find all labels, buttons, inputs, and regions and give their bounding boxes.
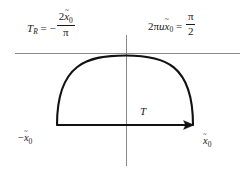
- equation-right-relation: =: [176, 20, 182, 32]
- equation-right-variable-subscript: 0: [169, 25, 173, 34]
- axis-label-right-subscript: 0: [208, 140, 212, 149]
- axis-label-left-variable: x: [24, 133, 29, 144]
- contour-label: T: [140, 106, 146, 117]
- equation-left-relation: =: [40, 22, 46, 34]
- axis-label-right-variable: x: [203, 136, 208, 147]
- axis-label-right-endpoint: x0: [203, 136, 211, 148]
- equation-right-variable: x: [165, 21, 170, 32]
- equation-left-numerator-variable: x: [64, 11, 69, 23]
- equation-left-denominator: π: [57, 27, 75, 39]
- axis-label-left-subscript: 0: [29, 137, 33, 146]
- equation-right-fraction: π 2: [186, 11, 196, 37]
- equation-left-numerator: 2x0: [57, 11, 75, 24]
- equation-left-fraction: 2x0 π: [57, 11, 75, 39]
- equation-right-numerator: π: [186, 11, 196, 23]
- axis-label-left-endpoint: −x0: [18, 133, 32, 145]
- contour-arc: [57, 56, 193, 126]
- equation-left-numerator-subscript: 0: [69, 16, 73, 25]
- equation-right: 2πux0 = π 2: [148, 11, 196, 37]
- equation-right-denominator: 2: [186, 26, 196, 38]
- equation-left: TR = − 2x0 π: [27, 11, 76, 39]
- equation-left-sign: −: [49, 22, 55, 34]
- figure-canvas: TR = − 2x0 π 2πux0 = π 2 −x0 x0 T: [0, 0, 251, 172]
- equation-left-lhs-subscript: R: [33, 27, 38, 36]
